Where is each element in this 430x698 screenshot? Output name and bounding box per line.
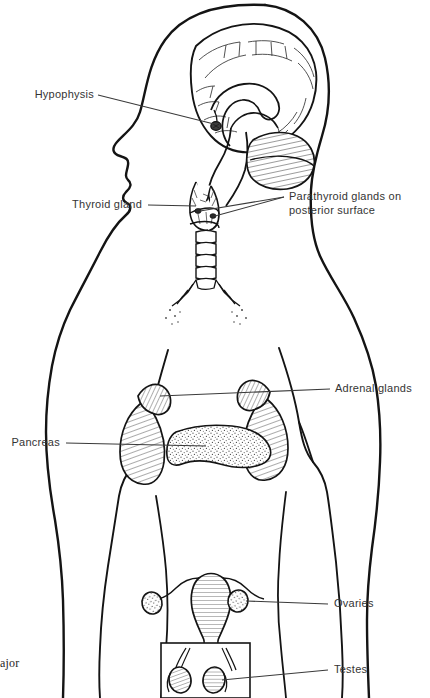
label-ovaries: Ovaries — [334, 597, 404, 611]
endocrine-system-diagram — [0, 0, 430, 698]
caption-fragment: ajor — [0, 656, 19, 671]
bronchi — [172, 279, 240, 307]
pancreas — [167, 425, 271, 467]
label-hypophysis: Hypophysis — [20, 88, 94, 102]
label-adrenal-glands: Adrenal glands — [335, 382, 430, 396]
label-thyroid-gland: Thyroid gland — [60, 198, 142, 212]
adrenal-glands — [138, 380, 270, 414]
trachea — [196, 231, 216, 280]
cerebellum — [247, 133, 315, 190]
brain-sagittal-section — [191, 24, 317, 152]
label-testes: Testes — [334, 663, 404, 677]
label-pancreas: Pancreas — [2, 436, 60, 450]
leader-ovaries — [246, 601, 328, 604]
label-parathyroid-glands: Parathyroid glands on posterior surface — [289, 190, 429, 217]
bronchioles — [165, 309, 247, 325]
leader-thyroid — [148, 205, 196, 206]
